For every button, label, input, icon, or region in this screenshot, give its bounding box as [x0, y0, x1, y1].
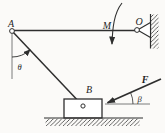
pin-a [10, 29, 15, 34]
pin-b [81, 104, 85, 108]
diagram-svg: A O B M F θ β [0, 0, 165, 133]
label-force-f: F [141, 74, 149, 85]
wall-hatch [151, 15, 159, 49]
beta-angle-arc [131, 93, 133, 104]
label-angle-beta: β [136, 94, 142, 104]
moment-arrow [112, 3, 122, 44]
mechanics-diagram: A O B M F θ β [0, 0, 165, 133]
label-point-a: A [7, 18, 15, 29]
theta-angle-arc [12, 50, 30, 57]
label-angle-theta: θ [17, 62, 21, 72]
ground-hatch [46, 119, 140, 126]
pin-o [135, 28, 140, 33]
force-arrow [108, 79, 162, 103]
label-point-b: B [86, 84, 92, 95]
label-point-o: O [135, 16, 142, 27]
rod-ab [12, 31, 83, 106]
label-moment-m: M [102, 20, 112, 31]
